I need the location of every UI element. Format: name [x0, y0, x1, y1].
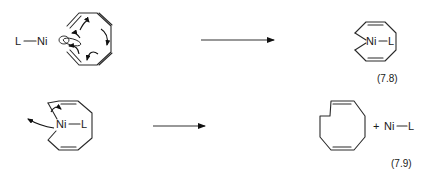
curly-arrow-icon [28, 119, 54, 128]
metal-label: Ni [56, 118, 66, 130]
metal-label: Ni [384, 120, 394, 132]
reactant-7-8: L Ni [15, 13, 112, 65]
plus-sign: + [373, 120, 379, 132]
ligand-label: L [388, 35, 394, 47]
ligand-label: L [15, 35, 21, 47]
curly-arrow-icon [87, 52, 98, 60]
reactant-7-9: Ni L [28, 101, 92, 150]
metal-label: Ni [37, 35, 47, 47]
product-7-9: + Ni L [320, 101, 414, 150]
cyclooctadiene-ring [320, 101, 365, 150]
reaction-scheme: L Ni Ni L (7.8) Ni [0, 0, 433, 174]
curly-arrow-icon [72, 33, 80, 38]
orbital-lobe-icon [59, 36, 69, 44]
equation-number-7-9: (7.9) [391, 158, 412, 169]
equation-number-7-8: (7.8) [377, 73, 398, 84]
curly-arrow-icon [80, 21, 89, 30]
ligand-label: L [408, 120, 414, 132]
curly-arrow-icon [101, 29, 107, 45]
ligand-label: L [81, 118, 87, 130]
metal-label: Ni [366, 35, 376, 47]
product-7-8: Ni L [355, 22, 396, 61]
